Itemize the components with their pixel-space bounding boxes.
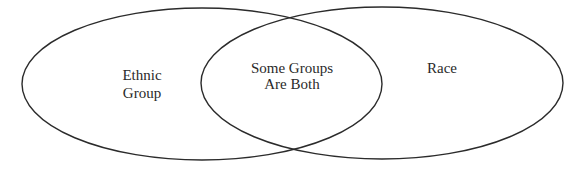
venn-diagram: Ethnic Group Some Groups Are Both Race (0, 0, 576, 169)
intersection-label-line2: Are Both (264, 76, 320, 92)
ethnic-group-ellipse (22, 8, 382, 160)
race-label: Race (427, 60, 457, 76)
ethnic-group-label-line2: Group (123, 85, 161, 101)
intersection-label-line1: Some Groups (251, 60, 333, 76)
ethnic-group-label-line1: Ethnic (122, 67, 161, 83)
